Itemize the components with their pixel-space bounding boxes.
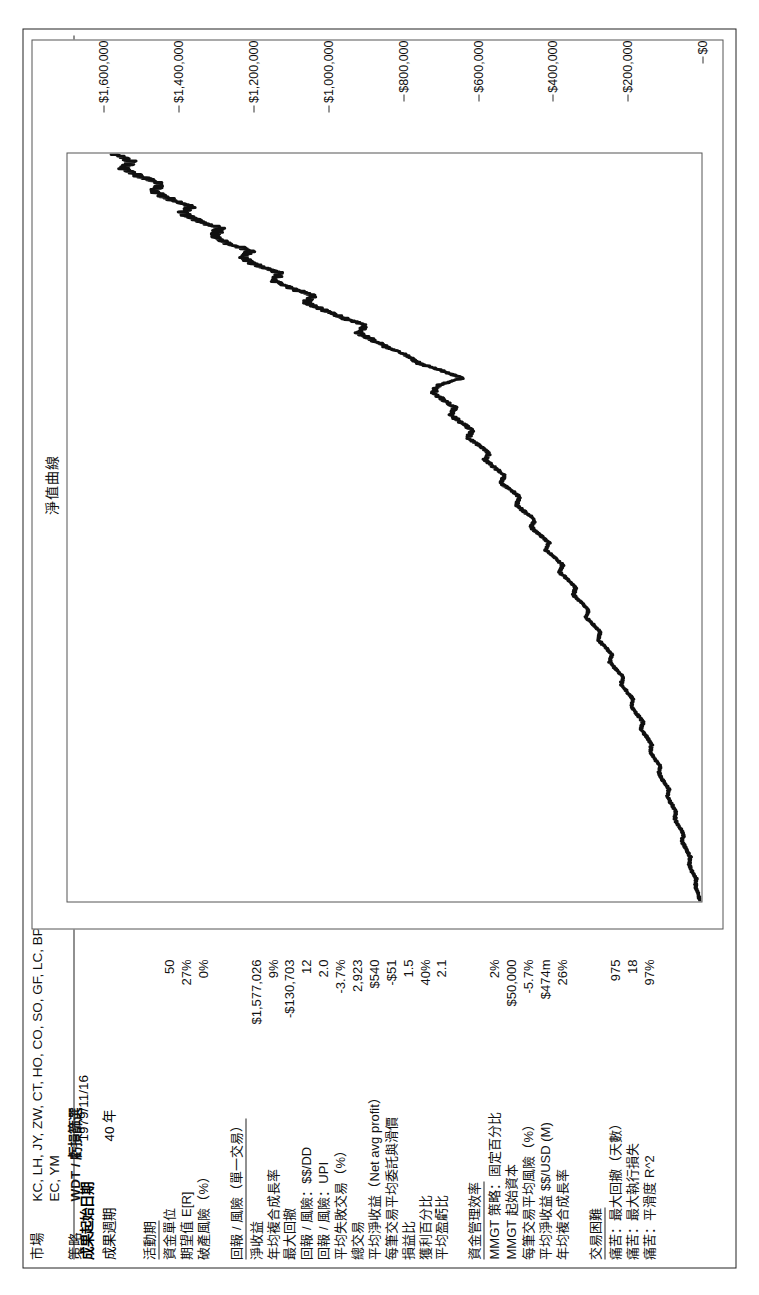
stat-label: 回報 / 風險：UPI [315,1151,332,1259]
stat-value: 18 [624,959,641,973]
chart-y-tick: $400,000 [545,40,559,101]
stat-value: 0% [195,959,212,978]
stat-value: -5.7% [520,959,537,993]
stat-label: 獲利百分比 [417,1184,434,1259]
chart-y-axis: $0$200,000$400,000$600,000$800,000$1,000… [66,40,702,152]
stat-row: 期望值 E[R] 27% [178,959,195,1259]
stat-row: MMGT 起始資本 $50,000 [503,959,520,1259]
report-outer-border: 市場 KC, LH, JY, ZW, CT, HO, CO, SO, GF, L… [22,28,736,1268]
statistics-panel: 活動期 資金單位 50 期望值 E[R] 27% 破產風險（%） 0% [127,959,670,1259]
chart-y-tick-label: $1,000,000 [321,40,335,103]
period-label: 成果週期 [97,1141,117,1259]
stat-group-title-activity: 活動期 [138,1220,159,1259]
equity-curve-svg [67,153,701,901]
stat-label: 痛苦：平滑度 R^2 [641,1145,658,1259]
stat-row: 平均盈虧比 2.1 [433,959,450,1259]
stat-row: 平均淨收益（Net avg profit） $540 [366,959,383,1259]
stat-label: MMGT 策略：固定百分比 [486,1102,503,1259]
stat-label: 回報 / 風險：$$/DD [298,1136,315,1259]
stat-value: $540 [366,959,383,988]
chart-y-tick-label: $600,000 [471,40,485,92]
stat-row: 破產風險（%） 0% [195,959,212,1259]
stat-value: 1.5 [400,959,417,977]
chart-y-tick-label: $400,000 [545,40,559,92]
chart-y-tick-label: $200,000 [620,40,634,92]
stat-label: 每筆交易平均風險（%） [520,1107,537,1259]
chart-y-tick: $1,600,000 [96,40,110,112]
stat-value: 2,923 [349,959,366,992]
report-sheet: 市場 KC, LH, JY, ZW, CT, HO, CO, SO, GF, L… [0,0,759,1295]
stat-group-return-risk: 回報 / 風險（單一交易） 淨收益 $1,577,026 年均複合成長率 9% … [225,959,451,1259]
stat-label: 平均盈虧比 [433,1184,450,1259]
stat-value: -3.7% [332,959,349,993]
chart-y-tick: $1,400,000 [171,40,185,112]
stat-row: 回報 / 風險：UPI 2.0 [315,959,332,1259]
stat-value: 2% [486,959,503,978]
stat-row: 淨收益 $1,577,026 [248,959,265,1259]
chart-y-tick: $1,200,000 [246,40,260,112]
stat-row: 資金單位 50 [161,959,178,1259]
stat-value: 2.1 [433,959,450,977]
chart-y-tick-label: $1,400,000 [171,40,185,103]
chart-y-tick-label: $800,000 [396,40,410,92]
page-frame: 市場 KC, LH, JY, ZW, CT, HO, CO, SO, GF, L… [0,0,759,1295]
stat-label: 年均複合成長率 [554,1158,571,1259]
chart-y-tick-mark [627,94,628,101]
start-date-value: 1979/11/16 [75,1074,95,1141]
stat-value: 975 [607,959,624,981]
chart-y-tick-mark [253,105,254,112]
stat-row: 年均複合成長率 9% [265,959,282,1259]
stat-label: 期望值 E[R] [178,1181,195,1259]
stat-row: 獲利百分比 40% [417,959,434,1259]
chart-y-tick-mark [403,94,404,101]
stat-row: 總交易 2,923 [349,959,366,1259]
chart-y-tick: $0 [695,40,709,63]
chart-y-tick: $800,000 [396,40,410,101]
stat-value: -$51 [383,959,400,985]
chart-title: 淨值曲線 [40,40,60,928]
stat-label: 淨收益 [248,1210,265,1259]
stat-value: 97% [641,959,658,985]
chart-y-tick-mark [328,105,329,112]
stat-label: 損益比 [400,1210,417,1259]
equity-curve-line [111,153,701,901]
stat-label: 最大回撤 [281,1197,298,1259]
stat-row: 痛苦：最大執行損失 18 [624,959,641,1259]
stat-value: $50,000 [503,959,520,1006]
stat-label: 平均淨收益 $$/USD (M) [537,1112,554,1259]
market-label: 市場 [29,1201,46,1259]
stat-group-title-return-risk: 回報 / 風險（單一交易） [225,1118,246,1259]
stat-label: 年均複合成長率 [265,1158,282,1259]
equity-curve-chart: 淨值曲線 $0$200,000$400,000$600,000$800,000$… [31,39,723,929]
chart-y-tick: $1,000,000 [321,40,335,112]
stat-label: 資金單位 [161,1197,178,1259]
stat-group-activity: 活動期 資金單位 50 期望值 E[R] 27% 破產風險（%） 0% [138,959,212,1259]
period-value: 40 年 [97,1109,117,1141]
stat-row: 每筆交易平均風險（%） -5.7% [520,959,537,1259]
stat-group-title-difficulty: 交易困難 [584,1207,605,1259]
chart-y-tick-label: $0 [695,40,709,54]
chart-y-tick-mark [178,105,179,112]
chart-y-tick-mark [702,56,703,63]
chart-y-tick-label: $1,200,000 [246,40,260,103]
stat-value: 2.0 [315,959,332,977]
stat-value: 9% [265,959,282,978]
stat-value: 12 [298,959,315,973]
stats-top-spacer [127,959,138,1259]
stat-row: 每筆交易平均委託與滑價 -$51 [383,959,400,1259]
stat-value: 27% [178,959,195,985]
stat-label: 痛苦：最大回撤（天數） [607,1106,624,1259]
stat-label: 平均失敗交易（%） [332,1133,349,1259]
start-date-label: 成果起始日期 [75,1141,95,1259]
stat-row: 損益比 1.5 [400,959,417,1259]
stat-row: MMGT 策略：固定百分比 2% [486,959,503,1259]
chart-y-tick-mark [478,94,479,101]
stat-label: 破產風險（%） [195,1159,212,1259]
stat-value: 40% [417,959,434,985]
stat-row: 痛苦：最大回撤（天數） 975 [607,959,624,1259]
stat-value: 26% [554,959,571,985]
stat-group-difficulty: 交易困難 痛苦：最大回撤（天數） 975 痛苦：最大執行損失 18 痛苦：平滑度… [584,959,658,1259]
stat-row: 回報 / 風險：$$/DD 12 [298,959,315,1259]
stat-group-title-money-management: 資金管理效率 [463,1181,484,1259]
stat-group-money-management: 資金管理效率 MMGT 策略：固定百分比 2% MMGT 起始資本 $50,00… [463,959,570,1259]
